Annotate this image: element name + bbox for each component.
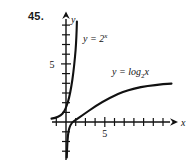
- graph-figure: y x 5 5 y = 2x y = log2x: [0, 0, 195, 166]
- exponential-curve-label: y = 2x: [82, 32, 108, 44]
- logarithmic-label-lhs: y = log: [111, 66, 141, 77]
- exponential-curve: [52, 22, 77, 119]
- y-axis-tick-label-5: 5: [50, 59, 55, 70]
- exponential-label-exponent: x: [103, 32, 108, 40]
- figure-page: 45.: [0, 0, 195, 166]
- y-axis-label: y: [70, 14, 76, 25]
- exponential-label-lhs: y = 2: [82, 33, 104, 44]
- y-axis-arrowhead: [62, 12, 70, 20]
- x-axis-arrowhead: [170, 118, 178, 126]
- svg-text:y = log2x: y = log2x: [111, 66, 149, 80]
- x-axis-tick-label-5: 5: [102, 128, 107, 139]
- x-axis-label: x: [180, 117, 186, 128]
- logarithmic-curve: [67, 84, 172, 158]
- logarithmic-curve-label: y = log2x: [111, 66, 149, 80]
- svg-text:y = 2x: y = 2x: [82, 32, 108, 44]
- logarithmic-label-argument: x: [143, 66, 149, 77]
